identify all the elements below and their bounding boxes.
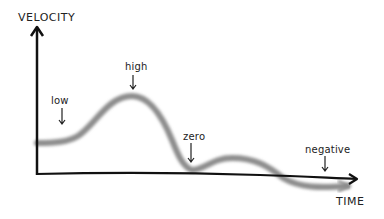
- x-axis: [36, 173, 357, 184]
- negative-arrow-icon: [322, 156, 328, 171]
- zero-arrow-icon: [188, 143, 194, 162]
- annotation-arrows: [59, 75, 328, 171]
- velocity-chart: [0, 0, 384, 219]
- y-axis: [31, 27, 43, 175]
- high-arrow-icon: [130, 75, 136, 89]
- annotation-negative: negative: [305, 144, 350, 155]
- y-axis-label: VELOCITY: [18, 11, 75, 24]
- annotation-zero: zero: [183, 131, 205, 142]
- annotation-high: high: [125, 61, 148, 72]
- x-axis-label: TIME: [336, 195, 364, 208]
- annotation-low: low: [51, 95, 69, 106]
- low-arrow-icon: [59, 108, 65, 124]
